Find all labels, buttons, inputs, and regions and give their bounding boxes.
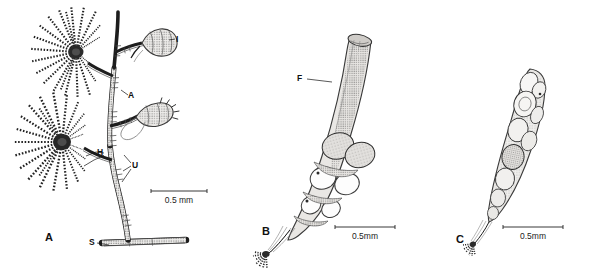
leader-b-f: [307, 79, 332, 82]
basal-filaments-c: [463, 241, 476, 256]
panel-letter-b: B: [262, 226, 270, 237]
label-b-gonotheca-wall: F: [297, 74, 302, 83]
panel-letter-c: C: [456, 234, 464, 245]
label-a-stolon: S: [89, 238, 95, 247]
hydranth-lower: [14, 91, 86, 192]
hydranth-upper: [30, 6, 101, 98]
panel-a-drawing: [0, 0, 230, 271]
pedicel-c: [471, 220, 492, 244]
scalebar-c-text: 0.5mm: [502, 232, 564, 241]
branch-upper-right: [116, 43, 143, 55]
basal-filaments-b: [253, 251, 270, 268]
scalebar-b: 0.5mm: [334, 224, 396, 241]
panel-a: A A H U I S 0.5 mm: [0, 0, 230, 271]
label-a-hydranth: H: [97, 148, 103, 157]
panel-letter-a: A: [45, 232, 53, 243]
gonophores-b: [294, 129, 378, 226]
scalebar-a: 0.5 mm: [150, 188, 208, 205]
scalebar-a-text: 0.5 mm: [150, 196, 208, 205]
stolon-shape: [102, 237, 186, 246]
label-a-annulation: A: [128, 91, 134, 100]
figure-plate: A A H U I S 0.5 mm: [0, 0, 600, 271]
label-a-hydrotheca: U: [132, 161, 138, 170]
panel-b: B F 0.5mm: [250, 0, 430, 271]
scalebar-c: 0.5mm: [502, 224, 564, 241]
label-a-gonotheca: I: [176, 35, 178, 44]
panel-c: C 0.5mm: [430, 0, 600, 271]
scalebar-b-text: 0.5mm: [334, 232, 396, 241]
branch-upper-hydranth: [87, 63, 113, 79]
